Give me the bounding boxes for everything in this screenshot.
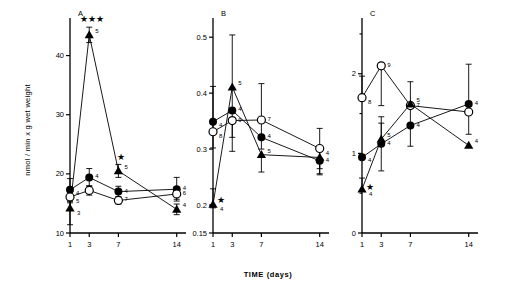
y-tick-label: 0 (352, 229, 356, 238)
sample-size-label: 3 (77, 210, 81, 216)
series-line-filled-triangle (362, 104, 469, 189)
sample-size-label: 4 (387, 140, 391, 146)
series-line-open-circle (362, 66, 469, 112)
y-tick-label: 0.4 (197, 89, 207, 98)
sample-size-label: 4 (326, 150, 330, 156)
sample-size-label: 4 (475, 100, 479, 106)
sample-size-label: 5 (238, 80, 242, 86)
sample-size-label: 8 (219, 133, 223, 139)
marker-filled-triangle (257, 150, 266, 158)
marker-open-circle (173, 190, 181, 198)
sample-size-label: 7 (267, 116, 271, 122)
marker-filled-triangle (228, 82, 237, 90)
y-axis-title: nmol / min x g wet weight (23, 84, 32, 176)
marker-filled-circle (85, 173, 93, 181)
x-axis-title: TIME (days) (244, 270, 293, 279)
figure-container: 1020304013714A444457635★★★5★40.150.20.30… (0, 0, 511, 294)
marker-filled-circle (114, 188, 122, 196)
sample-size-label: 4 (220, 206, 224, 212)
x-tick-label: 7 (259, 240, 263, 249)
x-tick-label: 7 (116, 240, 120, 249)
marker-open-circle (228, 117, 236, 125)
marker-filled-circle (257, 133, 265, 141)
sample-size-label: 4 (326, 157, 330, 163)
marker-open-circle (257, 116, 265, 124)
x-tick-label: 14 (465, 240, 473, 249)
series-line-filled-triangle (70, 35, 177, 209)
panel-label-c: C (370, 9, 376, 18)
significance-star: ★ (366, 182, 374, 192)
sample-size-label: 5 (416, 97, 420, 103)
marker-filled-circle (358, 153, 366, 161)
marker-open-circle (377, 62, 385, 70)
marker-open-circle (358, 94, 366, 102)
y-tick-label: 0.2 (197, 201, 207, 210)
marker-open-circle (85, 186, 93, 194)
series-line-filled-circle (362, 104, 469, 157)
sample-size-label: 5 (95, 28, 99, 34)
marker-open-circle (66, 193, 74, 201)
sample-size-label: 4 (95, 173, 99, 179)
marker-filled-circle (228, 106, 236, 114)
marker-filled-triangle (464, 141, 473, 149)
marker-open-circle (209, 128, 217, 136)
y-tick-label: 0.15 (192, 229, 207, 238)
x-tick-label: 7 (408, 240, 412, 249)
y-tick-label: 0.5 (197, 33, 207, 42)
x-tick-label: 3 (87, 240, 91, 249)
marker-filled-circle (209, 118, 217, 126)
marker-open-circle (465, 108, 473, 116)
marker-open-circle (316, 145, 324, 153)
sample-size-label: 5 (267, 148, 271, 154)
marker-filled-triangle (85, 30, 94, 38)
y-tick-label: 30 (56, 110, 64, 119)
marker-filled-circle (406, 122, 414, 130)
panel-label-b: B (221, 9, 226, 18)
y-tick-label: 1 (352, 149, 356, 158)
marker-filled-triangle (114, 166, 123, 174)
panel-a: 1020304013714A444457635★★★5★4 (56, 9, 187, 249)
x-tick-label: 3 (379, 240, 383, 249)
panel-c: 01213714C44448974★554 (352, 9, 479, 249)
y-tick-label: 0.3 (197, 145, 207, 154)
series-line-filled-triangle (213, 87, 320, 204)
sample-size-label: 6 (183, 190, 187, 196)
significance-star: ★ (217, 195, 225, 205)
sample-size-label: 9 (387, 62, 391, 68)
y-tick-label: 40 (56, 51, 64, 60)
panel-b: 0.150.20.30.40.513714B44448974★554 (192, 9, 329, 249)
x-tick-label: 1 (211, 240, 215, 249)
sample-size-label: 4 (124, 188, 128, 194)
three-panel-line-chart: 1020304013714A444457635★★★5★40.150.20.30… (0, 0, 511, 294)
sample-size-label: 5 (387, 132, 391, 138)
x-tick-label: 14 (173, 240, 181, 249)
marker-filled-circle (465, 100, 473, 108)
sample-size-label: 5 (76, 198, 80, 204)
significance-star: ★ (117, 152, 125, 162)
x-tick-label: 1 (68, 240, 72, 249)
sample-size-label: 4 (475, 138, 479, 144)
significance-star: ★★★ (80, 14, 104, 24)
marker-open-circle (114, 196, 122, 204)
x-tick-label: 14 (316, 240, 324, 249)
x-tick-label: 3 (230, 240, 234, 249)
y-tick-label: 10 (56, 229, 64, 238)
marker-filled-triangle (65, 204, 74, 212)
y-tick-label: 2 (352, 69, 356, 78)
sample-size-label: 4 (368, 157, 372, 163)
sample-size-label: 4 (267, 133, 271, 139)
sample-size-label: 8 (368, 99, 372, 105)
sample-size-label: 5 (124, 164, 128, 170)
sample-size-label: 4 (76, 190, 80, 196)
marker-filled-triangle (172, 205, 181, 213)
series-line-open-circle (213, 120, 320, 149)
y-tick-label: 20 (56, 169, 64, 178)
sample-size-label: 4 (183, 202, 187, 208)
x-tick-label: 1 (360, 240, 364, 249)
